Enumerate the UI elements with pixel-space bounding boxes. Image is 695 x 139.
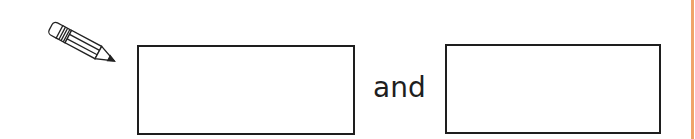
pencil-icon: [40, 20, 125, 70]
answer-box-2[interactable]: [445, 44, 661, 134]
answer-box-1[interactable]: [137, 45, 355, 135]
conjunction-text: and: [373, 74, 426, 102]
page-edge-line: [691, 0, 694, 139]
